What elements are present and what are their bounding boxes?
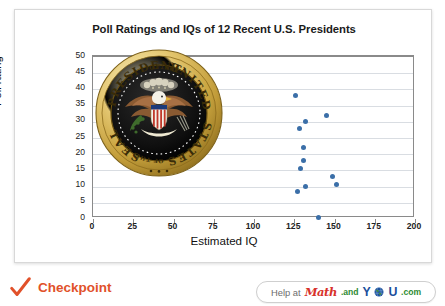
logo-math-word: Math	[305, 285, 337, 299]
figure-panel: Poll Ratings and IQs of 12 Recent U.S. P…	[14, 9, 432, 263]
scatter-point	[301, 145, 306, 150]
gridline	[93, 89, 413, 90]
logo-com-suffix: .com	[401, 287, 421, 297]
logo-u-letter: U	[388, 285, 397, 299]
x-tick-label: 200	[397, 221, 431, 231]
checkpoint-label: Checkpoint	[38, 280, 112, 295]
scatter-point	[297, 126, 302, 131]
globe-icon	[374, 287, 384, 297]
plot-area	[92, 55, 414, 217]
y-tick-label: 30	[59, 114, 85, 124]
gridline	[93, 170, 413, 171]
scatter-point	[303, 119, 308, 124]
y-tick-label: 25	[59, 131, 85, 141]
x-tick-label: 150	[317, 221, 351, 231]
gridline	[93, 106, 413, 107]
x-tick-label: 75	[196, 221, 230, 231]
help-prefix-label: Help at	[271, 287, 301, 298]
x-tick-label: 0	[75, 221, 109, 231]
y-tick-label: 50	[59, 50, 85, 60]
x-tick-label: 25	[115, 221, 149, 231]
gridline	[93, 138, 413, 139]
scatter-point	[303, 184, 308, 189]
x-axis-label: Estimated IQ	[15, 234, 433, 247]
scatter-point	[301, 158, 306, 163]
y-tick-label: 35	[59, 98, 85, 108]
scatter-point	[324, 113, 329, 118]
scatter-point	[295, 189, 300, 194]
x-tick-label: 175	[357, 221, 391, 231]
y-tick-label: 5	[59, 195, 85, 205]
gridline	[93, 122, 413, 123]
y-tick-label: 10	[59, 179, 85, 189]
y-tick-label: 20	[59, 147, 85, 157]
logo-y-letter: Y	[363, 285, 371, 299]
x-tick-label: 125	[276, 221, 310, 231]
checkpoint-marker: Checkpoint	[10, 277, 112, 298]
x-tick-label: 50	[156, 221, 190, 231]
scatter-point	[316, 215, 321, 220]
y-axis-label: Poll rating	[0, 56, 3, 106]
scatter-point	[330, 174, 335, 179]
screenshot-root: Poll Ratings and IQs of 12 Recent U.S. P…	[0, 0, 445, 306]
panel-divider	[0, 268, 445, 269]
chart-title: Poll Ratings and IQs of 12 Recent U.S. P…	[15, 23, 433, 35]
y-tick-label: 15	[59, 163, 85, 173]
y-tick-label: 40	[59, 82, 85, 92]
gridline	[93, 154, 413, 155]
help-link-pill[interactable]: Help at Math .and Y U .com	[256, 281, 436, 303]
logo-and-word: .and	[341, 287, 359, 297]
check-icon	[10, 277, 31, 298]
gridline	[93, 187, 413, 188]
scatter-point	[293, 93, 298, 98]
x-tick-label: 100	[236, 221, 270, 231]
y-tick-label: 45	[59, 66, 85, 76]
gridline	[93, 203, 413, 204]
gridline	[93, 73, 413, 74]
y-tick-label: 0	[59, 212, 85, 222]
